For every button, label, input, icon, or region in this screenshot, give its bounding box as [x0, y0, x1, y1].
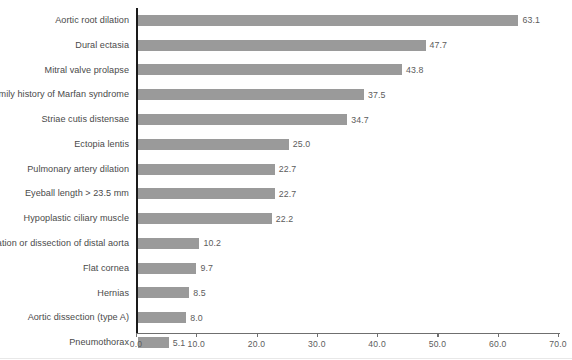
category-label: Mitral valve prolapse [45, 58, 129, 83]
bar-row: Family history of Marfan syndrome37.5 [0, 82, 572, 107]
x-axis-tick-mark [196, 333, 197, 337]
bar [138, 64, 402, 75]
bar [138, 263, 196, 274]
x-axis-tick-mark [377, 333, 378, 337]
bottom-edge-artifact [0, 358, 572, 359]
x-axis-tick-label: 60.0 [489, 339, 507, 349]
bar-value-label: 22.7 [279, 164, 297, 174]
bar [138, 213, 272, 224]
bar [138, 15, 518, 26]
bar-value-label: 8.0 [190, 313, 203, 323]
bar-value-label: 34.7 [351, 115, 369, 125]
bar [138, 40, 426, 51]
category-label: Striae cutis distensae [41, 107, 129, 132]
bar-value-label: 37.5 [368, 90, 386, 100]
bar-and-value: 43.8 [138, 58, 424, 83]
category-label: Flat cornea [83, 256, 129, 281]
bar-row: Ectopia lentis25.0 [0, 132, 572, 157]
bar-row: Pneumothorax5.1 [0, 330, 572, 355]
bar-row: Pulmonary artery dilation22.7 [0, 157, 572, 182]
bar-value-label: 63.1 [522, 15, 540, 25]
bar-value-label: 8.5 [193, 288, 206, 298]
bar-value-label: 10.2 [203, 238, 221, 248]
bar [138, 312, 186, 323]
x-axis-tick-label: 40.0 [368, 339, 386, 349]
category-label: Pulmonary artery dilation [27, 157, 129, 182]
bar [138, 114, 347, 125]
x-axis-tick-mark [498, 333, 499, 337]
x-axis-tick-mark [257, 333, 258, 337]
category-label: Aortic root dilation [55, 8, 129, 33]
bar-value-label: 22.2 [276, 214, 294, 224]
bar-and-value: 25.0 [138, 132, 310, 157]
bar-and-value: 22.7 [138, 157, 296, 182]
bar-value-label: 22.7 [279, 189, 297, 199]
x-axis-tick-label: 20.0 [248, 339, 266, 349]
x-axis-tick-mark [558, 333, 559, 337]
bar [138, 89, 364, 100]
category-label: Aortic dissection (type A) [28, 305, 129, 330]
bar [138, 188, 275, 199]
bar [138, 287, 189, 298]
x-axis-tick-mark [317, 333, 318, 337]
bar-value-label: 5.1 [173, 338, 186, 348]
bar-and-value: 5.1 [138, 330, 185, 355]
bar-row: Mitral valve prolapse43.8 [0, 58, 572, 83]
bar [138, 238, 199, 249]
bar-row: Striae cutis distensae34.7 [0, 107, 572, 132]
bar-and-value: 34.7 [138, 107, 369, 132]
category-label: Hypoplastic ciliary muscle [24, 206, 129, 231]
x-axis-tick-mark [136, 333, 137, 337]
bar-and-value: 37.5 [138, 82, 386, 107]
bar-row: Hypoplastic ciliary muscle22.2 [0, 206, 572, 231]
bar-row: Flat cornea9.7 [0, 256, 572, 281]
bar-and-value: 47.7 [138, 33, 447, 58]
bar-row: Aortic dissection (type A)8.0 [0, 305, 572, 330]
bar-row: Dural ectasia47.7 [0, 33, 572, 58]
x-axis-tick-label: 30.0 [308, 339, 326, 349]
bar-row: Eyeball length > 23.5 mm22.7 [0, 181, 572, 206]
bar-value-label: 43.8 [406, 65, 424, 75]
category-label: Dilation or dissection of distal aorta [0, 231, 129, 256]
category-label: Ectopia lentis [74, 132, 129, 157]
x-axis-tick-label: 0.0 [130, 339, 143, 349]
category-label: Pneumothorax [69, 330, 129, 355]
category-label: Hernias [97, 281, 129, 306]
bar-and-value: 8.0 [138, 305, 203, 330]
bar-and-value: 22.7 [138, 181, 296, 206]
bar [138, 164, 275, 175]
x-axis-tick-label: 10.0 [188, 339, 206, 349]
x-axis-tick-label: 50.0 [429, 339, 447, 349]
horizontal-bar-chart: Aortic root dilation63.1Dural ectasia47.… [0, 0, 572, 360]
category-label: Eyeball length > 23.5 mm [25, 181, 129, 206]
bar-and-value: 63.1 [138, 8, 540, 33]
bar [138, 139, 289, 150]
bar-and-value: 8.5 [138, 281, 206, 306]
bar-row: Dilation or dissection of distal aorta10… [0, 231, 572, 256]
x-axis-tick-label: 70.0 [549, 339, 567, 349]
x-axis-tick-mark [437, 333, 438, 337]
bar-value-label: 9.7 [200, 263, 213, 273]
bar-row: Aortic root dilation63.1 [0, 8, 572, 33]
category-label: Dural ectasia [75, 33, 129, 58]
bar-and-value: 10.2 [138, 231, 221, 256]
bar-row: Hernias8.5 [0, 281, 572, 306]
bar-and-value: 9.7 [138, 256, 213, 281]
category-label: Family history of Marfan syndrome [0, 82, 129, 107]
bar-and-value: 22.2 [138, 206, 293, 231]
bar-value-label: 47.7 [430, 40, 448, 50]
bar-value-label: 25.0 [293, 139, 311, 149]
